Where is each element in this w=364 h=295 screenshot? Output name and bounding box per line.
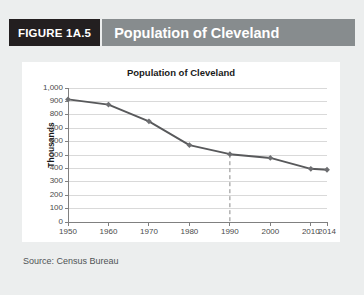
x-tick-label: 1980: [174, 227, 204, 236]
x-tick-label: 1990: [215, 227, 245, 236]
x-tick-label: 2014: [312, 227, 342, 236]
y-tick-label: 200: [24, 190, 63, 199]
figure-header: FIGURE 1A.5 Population of Cleveland: [9, 19, 355, 46]
y-tick-label: 700: [24, 123, 63, 132]
y-tick-label: 600: [24, 136, 63, 145]
x-tick-label: 1950: [53, 227, 83, 236]
figure-number-badge: FIGURE 1A.5: [9, 19, 100, 46]
y-tick-label: 400: [24, 163, 63, 172]
y-tick-label: 100: [24, 203, 63, 212]
x-tick-label: 1960: [93, 227, 123, 236]
y-tick-label: 500: [24, 150, 63, 159]
x-tick-label: 1970: [134, 227, 164, 236]
y-tick-label: 0: [24, 217, 63, 226]
y-tick-label: 300: [24, 176, 63, 185]
source-note: Source: Census Bureau: [23, 256, 119, 266]
y-tick-label: 800: [24, 109, 63, 118]
line-chart-svg: [22, 62, 340, 242]
chart-card: Population of Cleveland Thousands 010020…: [22, 62, 340, 242]
x-tick-label: 2000: [255, 227, 285, 236]
figure-panel: FIGURE 1A.5 Population of Cleveland Popu…: [0, 0, 364, 295]
y-tick-label: 900: [24, 96, 63, 105]
figure-title: Population of Cleveland: [100, 19, 355, 46]
y-tick-label: 1,000: [24, 83, 63, 92]
plot-area: Thousands 01002003004005006007008009001,…: [22, 62, 340, 242]
